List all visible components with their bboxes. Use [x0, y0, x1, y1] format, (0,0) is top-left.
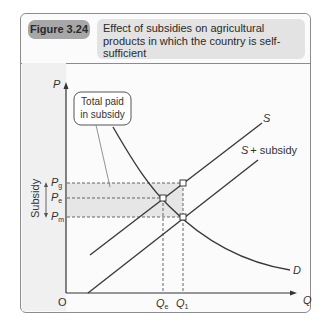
pg-point [180, 180, 186, 186]
x-axis-label: Q [303, 294, 312, 306]
demand-label: D [293, 264, 301, 276]
callout-pointer [96, 125, 110, 187]
y-axis-label: P [53, 78, 61, 90]
qe-label: Qe [156, 297, 169, 310]
subsidy-side-label: Subsidy [29, 178, 41, 218]
subsidy-diagram: Total paid in subsidy P Q O Pg Pe Pm Qe … [0, 0, 327, 331]
pm-point [180, 214, 186, 220]
callout-line1: Total paid [81, 96, 124, 107]
supply-label: S [263, 112, 271, 124]
x-axis-arrow-icon [290, 291, 297, 296]
supply-subsidy-label: S+ subsidy [241, 144, 298, 156]
origin-label: O [58, 296, 67, 308]
equilibrium-point [160, 195, 166, 201]
callout-line2: in subsidy [80, 109, 124, 120]
q1-label: Q1 [176, 297, 189, 310]
supply-subsidy-curve [88, 160, 258, 293]
